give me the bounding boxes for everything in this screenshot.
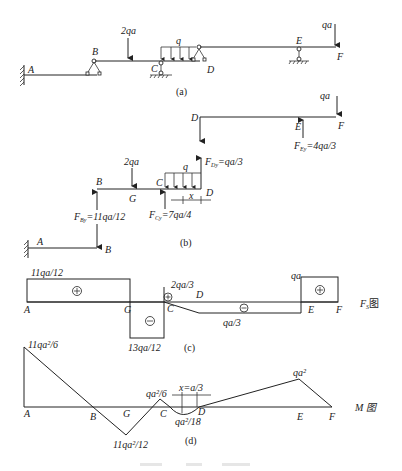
- label-a-D: D: [206, 64, 215, 75]
- panel-d-moment-diagram: x=a/3 11qa²/6 11qa²/12 qa²/6 qa²/18 qa² …: [23, 339, 378, 450]
- shear-block-cde: [164, 287, 301, 313]
- load-qa: qa: [322, 19, 332, 30]
- label-b-A: A: [36, 236, 44, 247]
- label-b-G: G: [129, 193, 136, 204]
- panel-b: D qa F E FEy=4qa/3 B 2qa G C q FDy=qa/3 …: [24, 90, 345, 258]
- moment-dim-x: x=a/3: [178, 382, 203, 393]
- label-b-B-top: B: [96, 176, 102, 187]
- panel-c-shear-diagram: 11qa/12 13qa/12 2qa/3 qa/3 qa A G C D E …: [23, 267, 379, 354]
- roller-support-e-icon: [289, 47, 309, 64]
- shear-label-E: E: [307, 304, 314, 315]
- moment-value-c: qa²/6: [146, 388, 167, 399]
- load-q: q: [176, 35, 181, 46]
- shear-value-c-peak: 2qa/3: [171, 279, 194, 290]
- load-b-q: q: [183, 161, 188, 172]
- fixed-support-icon: [24, 240, 28, 258]
- moment-label-A: A: [23, 408, 31, 419]
- shear-value-de: qa/3: [223, 317, 241, 328]
- moment-label-F: F: [328, 411, 336, 422]
- load-2qa: 2qa: [121, 25, 136, 36]
- label-b-D: D: [190, 112, 199, 123]
- moment-label-C: C: [160, 408, 167, 419]
- dim-x: x: [188, 190, 194, 201]
- moment-value-a: 11qa²/6: [28, 339, 58, 350]
- load-b-qa: qa: [320, 90, 330, 101]
- label-b-B-bottom: B: [105, 244, 111, 255]
- moment-diagram-title: M 图: [354, 402, 378, 413]
- distributed-load-icon: [161, 47, 196, 59]
- beam-diagram-figure: A B 2qa q: [0, 0, 402, 471]
- label-b-D-mid: D: [205, 187, 214, 198]
- moment-value-e: qa²: [293, 367, 307, 378]
- reaction-fey: FEy=4qa/3: [293, 140, 336, 152]
- moment-curve-cd-parabola: [170, 407, 199, 415]
- label-a-C: C: [151, 63, 158, 74]
- label-b-E: E: [294, 121, 301, 132]
- panel-d-caption: (d): [185, 435, 197, 447]
- moment-value-g: 11qa²/12: [113, 439, 148, 450]
- load-b-2qa: 2qa: [124, 156, 139, 167]
- shear-label-C: C: [167, 303, 174, 314]
- moment-label-E: E: [296, 411, 303, 422]
- fixed-support-icon: [20, 65, 24, 86]
- moment-label-B: B: [90, 411, 96, 422]
- panel-b-caption: (b): [180, 237, 192, 249]
- shear-value-ag: 11qa/12: [31, 267, 63, 278]
- label-a-F: F: [336, 51, 344, 62]
- panel-c-caption: (c): [184, 342, 195, 354]
- panel-a-caption: (a): [176, 86, 187, 98]
- reaction-fby: FBy=11qa/12: [73, 211, 125, 223]
- shear-label-D: D: [195, 289, 204, 300]
- moment-curve-d-f: [199, 379, 332, 407]
- label-a-E: E: [295, 35, 302, 46]
- distributed-load-icon: [165, 173, 201, 187]
- moment-label-D: D: [197, 406, 206, 417]
- shear-block-ag: [27, 279, 130, 302]
- shear-label-A: A: [23, 304, 31, 315]
- label-b-F: F: [337, 120, 345, 131]
- panel-a: A B 2qa q: [20, 19, 344, 98]
- shear-label-F: F: [335, 304, 343, 315]
- shear-value-gc: 13qa/12: [128, 342, 161, 353]
- label-a-B: B: [92, 46, 98, 57]
- shear-diagram-title: FS图: [359, 298, 379, 310]
- shear-block-ef: [301, 277, 338, 302]
- figure-caption-illegible: [140, 463, 250, 466]
- moment-label-G: G: [123, 408, 130, 419]
- moment-value-min-cd: qa²/18: [175, 416, 201, 427]
- label-b-C: C: [156, 177, 163, 188]
- shear-value-ef: qa: [291, 270, 301, 281]
- shear-block-gc: [130, 302, 164, 338]
- reaction-fdy: FDy=qa/3: [204, 156, 243, 168]
- shear-label-G: G: [124, 304, 131, 315]
- reaction-fcy: FCy=7qa/4: [148, 209, 191, 221]
- label-a-A: A: [27, 64, 35, 75]
